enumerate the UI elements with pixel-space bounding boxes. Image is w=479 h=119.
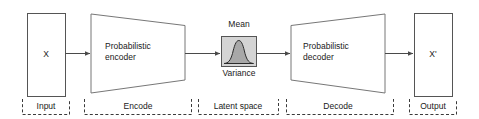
- decoder-title: Probabilisticdecoder: [303, 41, 383, 63]
- decoder-title-line1: Probabilistic: [303, 41, 349, 51]
- vae-architecture-diagram: X Probabilisticencoder Mean Variance Pro…: [0, 0, 479, 119]
- encoder-title-line2: encoder: [105, 52, 136, 62]
- latent-mean-label: Mean: [208, 19, 270, 30]
- stage-label-encode: Encode: [88, 101, 188, 112]
- stage-label-output: Output: [408, 101, 458, 112]
- latent-variance-label: Variance: [203, 68, 275, 79]
- stage-label-decode: Decode: [288, 101, 388, 112]
- encoder-title: Probabilisticencoder: [105, 41, 185, 63]
- decoder-title-line2: decoder: [303, 52, 334, 62]
- input-variable-label: X: [27, 49, 65, 60]
- output-variable-label: X': [414, 49, 452, 60]
- encoder-title-line1: Probabilistic: [105, 41, 151, 51]
- stage-label-latent-space: Latent space: [198, 101, 278, 112]
- stage-label-input: Input: [22, 101, 70, 112]
